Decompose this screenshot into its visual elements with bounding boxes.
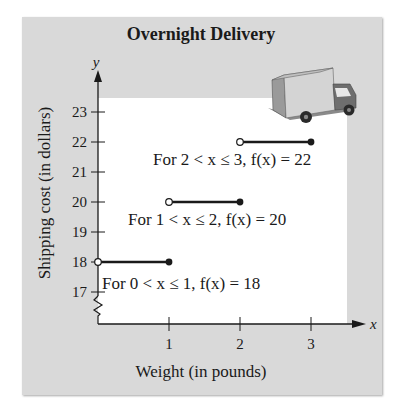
y-axis-break-icon xyxy=(94,296,102,324)
y-tick-label: 18 xyxy=(72,254,87,270)
annotation-label: For 2 < x ≤ 3, f(x) = 22 xyxy=(153,150,311,169)
annotation-label: For 0 < x ≤ 1, f(x) = 18 xyxy=(102,274,260,293)
y-tick-label: 21 xyxy=(72,164,87,180)
y-tick-label: 20 xyxy=(72,194,87,210)
y-tick-label: 22 xyxy=(72,134,87,150)
open-endpoint xyxy=(237,139,244,146)
x-tick-label: 3 xyxy=(307,336,315,352)
x-axis-arrow-icon xyxy=(352,320,366,328)
delivery-truck-icon xyxy=(268,68,356,123)
closed-endpoint xyxy=(237,199,244,206)
open-endpoint xyxy=(95,259,102,266)
closed-endpoint xyxy=(308,139,315,146)
y-tick-label: 17 xyxy=(72,284,88,300)
chart-svg: yx17181920212223123For 0 < x ≤ 1, f(x) =… xyxy=(0,0,402,414)
closed-endpoint xyxy=(166,259,173,266)
annotation-label: For 1 < x ≤ 2, f(x) = 20 xyxy=(128,210,286,229)
x-tick-label: 2 xyxy=(236,336,244,352)
y-axis-variable: y xyxy=(91,54,100,70)
y-axis-arrow-icon xyxy=(94,70,102,82)
open-endpoint xyxy=(166,199,173,206)
x-axis-variable: x xyxy=(369,316,377,332)
y-tick-label: 23 xyxy=(72,104,87,120)
y-tick-label: 19 xyxy=(72,224,87,240)
x-tick-label: 1 xyxy=(165,336,173,352)
